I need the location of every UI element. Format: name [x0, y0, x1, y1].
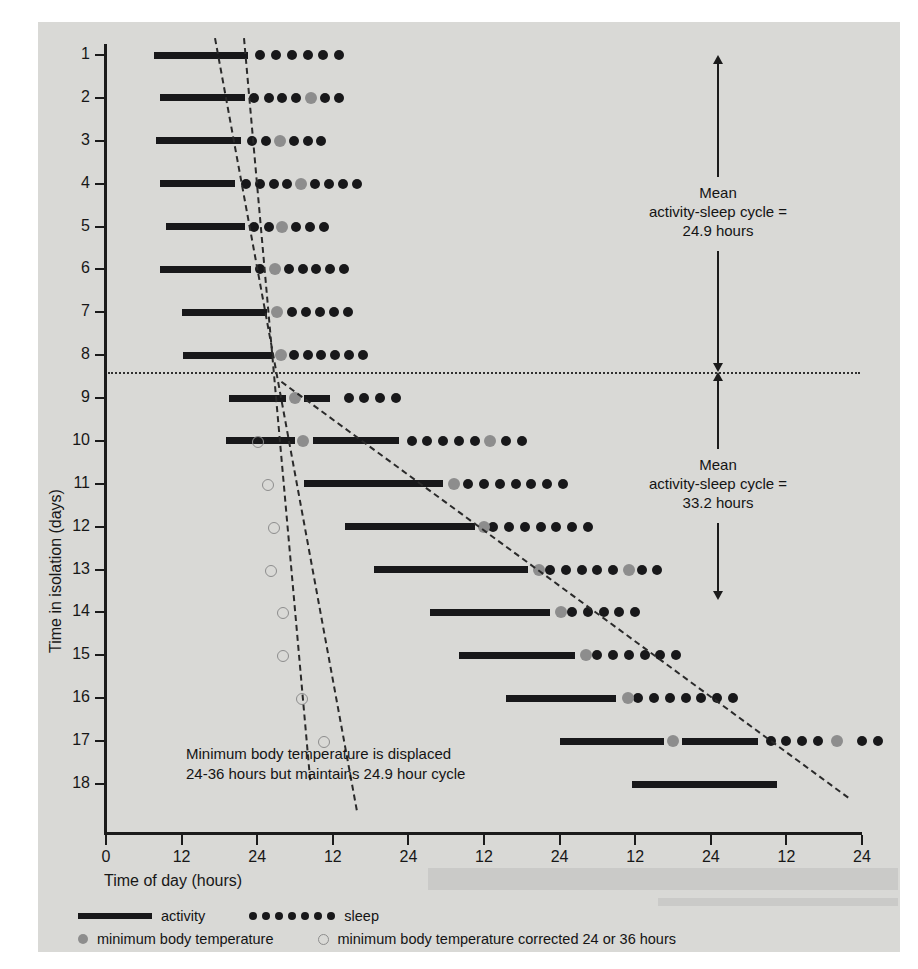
sleep-dot-day-8-3	[316, 350, 326, 360]
sleep-dot-day-4-3	[269, 179, 279, 189]
mean-cycle-lower-annotation: Meanactivity-sleep cycle =33.2 hours	[613, 372, 823, 599]
sleep-dot-day-8-5	[344, 350, 354, 360]
sleep-dot-day-8-4	[330, 350, 340, 360]
sleep-dot-day-16-4	[681, 693, 691, 703]
y-tick-label-7: 7	[60, 303, 90, 319]
sleep-dot-day-15-1	[592, 650, 602, 660]
min-body-temperature-dot-day-3-1	[274, 135, 286, 147]
min-body-temperature-dot-day-5-1	[276, 221, 288, 233]
x-tick-label-36: 12	[324, 848, 342, 866]
sleep-dot-day-17-5	[857, 736, 867, 746]
arrow-stem-lower	[717, 251, 719, 364]
sleep-dot-day-12-6	[567, 522, 577, 532]
sleep-dot-day-5-4	[305, 222, 315, 232]
x-tick-48	[407, 835, 409, 845]
sleep-dot-day-12-2	[504, 522, 514, 532]
min-body-temperature-dot-day-11-1	[448, 478, 460, 490]
activity-bar-day-15-1	[459, 652, 576, 659]
activity-bar-day-1-1	[154, 52, 248, 59]
activity-bar-day-12-1	[345, 523, 474, 530]
annotation-line: Mean	[613, 183, 823, 202]
sleep-dot-day-9-3	[375, 393, 385, 403]
y-tick-label-14: 14	[60, 603, 90, 619]
min-body-temperature-dot-day-2-1	[305, 92, 317, 104]
x-tick-24	[256, 835, 258, 845]
y-tick-2	[95, 97, 104, 99]
min-body-temperature-dot-day-17-2	[831, 735, 843, 747]
corrected-temperature-trend	[243, 38, 311, 780]
sleep-dot-day-12-5	[551, 522, 561, 532]
sleep-dot-day-10-2	[422, 436, 432, 446]
x-tick-120	[861, 835, 863, 845]
sleep-dot-day-17-3	[797, 736, 807, 746]
sleep-dot-day-1-2	[271, 50, 281, 60]
sleep-dot-day-12-3	[520, 522, 530, 532]
scan-artifact-band	[428, 868, 898, 890]
y-tick-16	[95, 697, 104, 699]
x-tick-label-108: 12	[777, 848, 795, 866]
sleep-dot-day-2-2	[264, 93, 274, 103]
y-tick-label-4: 4	[60, 175, 90, 191]
activity-bar-day-3-1	[156, 137, 241, 144]
y-tick-label-12: 12	[60, 518, 90, 534]
y-tick-10	[95, 440, 104, 442]
plot-area: Time in isolation (days) Time of day (ho…	[38, 22, 900, 952]
sleep-dot-day-6-4	[311, 264, 321, 274]
sleep-dot-day-13-3	[577, 565, 587, 575]
y-tick-label-1: 1	[60, 46, 90, 62]
y-tick-4	[95, 183, 104, 185]
sleep-dot-day-6-3	[298, 264, 308, 274]
sleep-dot-day-11-4	[511, 479, 521, 489]
activity-bar-day-13-1	[374, 566, 528, 573]
sleep-dot-day-7-2	[301, 307, 311, 317]
annotation-line: activity-sleep cycle =	[613, 202, 823, 221]
sleep-dot-day-14-5	[630, 607, 640, 617]
x-tick-label-24: 24	[248, 848, 266, 866]
y-tick-13	[95, 569, 104, 571]
sleep-dot-day-1-3	[287, 50, 297, 60]
x-tick-label-96: 24	[702, 848, 720, 866]
sleep-dot-day-1-6	[334, 50, 344, 60]
legend-item-activity: activity	[78, 908, 205, 924]
x-tick-72	[559, 835, 561, 845]
activity-bar-day-10-2	[313, 437, 399, 444]
x-tick-label-120: 24	[853, 848, 871, 866]
sleep-dot-day-7-4	[329, 307, 339, 317]
temperature-note-annotation: Minimum body temperature is displaced 24…	[186, 744, 465, 783]
x-tick-60	[483, 835, 485, 845]
y-tick-label-11: 11	[60, 475, 90, 491]
sleep-dot-day-2-4	[291, 93, 301, 103]
sleep-dot-day-4-6	[324, 179, 334, 189]
sleep-dot-day-13-4	[592, 565, 602, 575]
y-tick-label-17: 17	[60, 732, 90, 748]
arrow-head-down-icon	[713, 363, 723, 372]
sleep-dot-day-15-3	[624, 650, 634, 660]
x-tick-84	[634, 835, 636, 845]
sleep-dot-day-13-2	[561, 565, 571, 575]
sleep-dot-day-1-5	[318, 50, 328, 60]
sleep-dot-day-1-1	[255, 50, 265, 60]
y-tick-label-9: 9	[60, 389, 90, 405]
sleep-dot-day-5-5	[319, 222, 329, 232]
min-body-temperature-dot-day-8-1	[275, 349, 287, 361]
min-body-temperature-corrected-dot-day-15-1	[277, 650, 289, 662]
y-tick-label-15: 15	[60, 646, 90, 662]
arrow-stem-lower	[717, 523, 719, 591]
sleep-dot-day-4-4	[282, 179, 292, 189]
x-tick-label-60: 12	[475, 848, 493, 866]
annotation-line: 33.2 hours	[613, 493, 823, 512]
sleep-dot-day-11-5	[526, 479, 536, 489]
legend-item-sleep: sleep	[249, 908, 379, 924]
min-body-temperature-dot-day-7-1	[271, 306, 283, 318]
sleep-dot-day-1-4	[303, 50, 313, 60]
x-tick-label-72: 24	[551, 848, 569, 866]
min-body-temperature-corrected-dot-day-13-1	[265, 565, 277, 577]
y-tick-17	[95, 740, 104, 742]
sleep-dot-day-12-7	[583, 522, 593, 532]
sleep-dot-day-16-7	[728, 693, 738, 703]
x-tick-108	[785, 835, 787, 845]
scan-artifact-band-2	[658, 898, 898, 906]
x-axis-label: Time of day (hours)	[104, 872, 242, 890]
mean-cycle-upper-annotation: Meanactivity-sleep cycle =24.9 hours	[613, 55, 823, 372]
activity-bar-day-16-1	[506, 695, 616, 702]
